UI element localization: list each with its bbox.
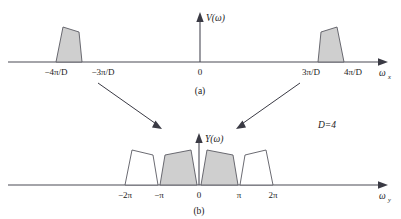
panel-a-tick-3pi-over-d: 3π/D	[302, 67, 321, 77]
panel-b-x-axis-arrowhead	[378, 181, 388, 189]
signal-spectrum-figure: V(ω) ω x −4π/D −3π/D 0 3π/D 4π/D (a) D=4	[0, 0, 401, 219]
panel-b-label: (b)	[193, 206, 204, 217]
panel-b-y-axis-arrowhead	[195, 133, 202, 143]
panel-a-tick-neg4pi-over-d: −4π/D	[44, 67, 68, 77]
panel-a-left-band	[56, 27, 82, 62]
panel-b: Y(ω) ω y −2π −π 0 π 2π (b)	[8, 133, 391, 217]
panel-a-x-axis-label: ω	[379, 68, 386, 78]
panel-a-tick-neg3pi-over-d: −3π/D	[91, 67, 115, 77]
panel-b-inner-left-band	[160, 150, 197, 185]
panel-a-right-band	[318, 27, 344, 62]
panel-a: V(ω) ω x −4π/D −3π/D 0 3π/D 4π/D (a)	[8, 12, 391, 97]
panel-b-x-axis-subscript: y	[387, 196, 391, 203]
panel-b-y-axis-label: Y(ω)	[205, 134, 223, 145]
panel-b-tick-neg2pi: −2π	[118, 190, 133, 200]
panel-a-tick-4pi-over-d: 4π/D	[344, 67, 363, 77]
panel-b-far-right-band	[240, 150, 273, 185]
panel-a-y-axis-arrowhead	[196, 12, 203, 22]
panel-a-x-axis-subscript: x	[387, 73, 391, 80]
panel-b-inner-right-band	[201, 150, 238, 185]
panel-a-x-axis-arrowhead	[378, 58, 388, 66]
panel-b-tick-2pi: 2π	[268, 190, 278, 200]
panel-b-origin-label: 0	[197, 190, 202, 200]
right-connector-line	[239, 83, 300, 126]
panel-a-origin-label: 0	[198, 67, 203, 77]
panel-a-y-axis-label: V(ω)	[206, 13, 225, 24]
panel-b-far-left-band	[125, 150, 158, 185]
panel-a-label: (a)	[195, 86, 206, 97]
left-connector-line	[98, 83, 159, 126]
panel-b-x-axis-label: ω	[379, 191, 386, 201]
panel-b-tick-pi: π	[237, 190, 242, 200]
panel-b-tick-negpi: −π	[154, 190, 164, 200]
decimation-factor-annotation: D=4	[317, 120, 336, 130]
